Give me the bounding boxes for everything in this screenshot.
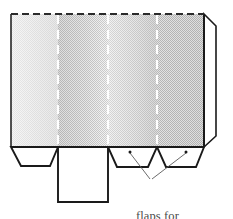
panel-2-texture [58, 14, 108, 147]
bottom-flap-center-tuck [58, 147, 108, 202]
leader-dot-right [185, 151, 188, 154]
leader-dot-left [129, 151, 132, 154]
box-net-svg [0, 0, 233, 219]
box-net-figure: flaps for glue [0, 0, 233, 219]
side-flap-right [204, 14, 216, 147]
panel-4-texture [157, 14, 204, 147]
glue-flap-third [108, 147, 157, 167]
bottom-flap-first [11, 147, 58, 166]
panel-1-texture [11, 14, 58, 147]
panel-3-texture [108, 14, 157, 147]
